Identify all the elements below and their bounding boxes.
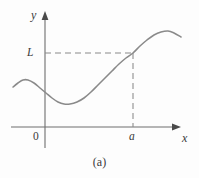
x-value-label: a xyxy=(129,131,135,143)
figure-caption: (a) xyxy=(0,155,199,170)
x-axis-label: x xyxy=(182,132,187,144)
figure-panel: y x L a 0 (a) xyxy=(0,0,199,178)
limit-level-label: L xyxy=(27,47,33,59)
function-curve xyxy=(13,31,181,104)
graph-canvas xyxy=(0,0,199,178)
x-axis-arrowhead xyxy=(172,124,181,131)
origin-label: 0 xyxy=(33,131,39,143)
y-axis-arrowhead xyxy=(42,11,49,20)
y-axis-label: y xyxy=(31,9,36,21)
